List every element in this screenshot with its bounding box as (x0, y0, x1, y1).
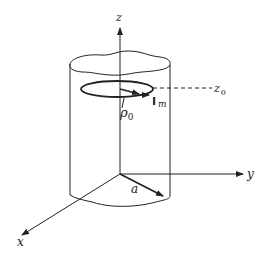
z-axis-label: z (115, 11, 122, 24)
current-label: Im (152, 95, 167, 109)
rho0-label: ρ0 (119, 105, 134, 122)
cylinder-bottom-rim (70, 195, 170, 206)
x-axis-label: x (17, 235, 24, 249)
x-axis (22, 174, 120, 235)
y-axis-label: y (246, 167, 254, 181)
axes (22, 28, 243, 235)
current-loop (81, 81, 212, 108)
rho0-vector (120, 89, 139, 94)
z0-label: z0 (213, 82, 226, 97)
radius-label: a (131, 182, 138, 196)
cylinder-diagram: z y x a ρ0 Im z0 (0, 0, 266, 254)
radius-a-arrow (120, 174, 163, 196)
